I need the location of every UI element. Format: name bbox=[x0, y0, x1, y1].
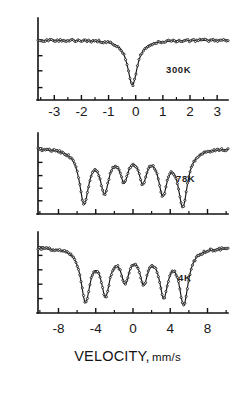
data-point bbox=[156, 173, 158, 175]
data-point bbox=[194, 160, 196, 162]
data-point bbox=[143, 181, 145, 183]
data-point bbox=[159, 281, 161, 283]
data-point bbox=[136, 65, 138, 67]
data-point bbox=[72, 160, 74, 162]
data-point bbox=[90, 277, 92, 279]
data-point bbox=[104, 193, 106, 195]
data-point bbox=[147, 270, 149, 272]
data-point bbox=[121, 275, 123, 277]
data-point bbox=[156, 272, 158, 274]
data-point bbox=[165, 290, 167, 292]
data-point bbox=[88, 186, 90, 188]
data-point bbox=[81, 287, 83, 289]
temperature-label-300K: 300K bbox=[166, 64, 191, 75]
data-point bbox=[80, 191, 82, 193]
data-point bbox=[159, 184, 161, 186]
data-point bbox=[140, 179, 142, 181]
data-point bbox=[126, 175, 128, 177]
data-point bbox=[126, 280, 128, 282]
data-point bbox=[157, 178, 159, 180]
data-point bbox=[134, 263, 136, 265]
data-point bbox=[117, 265, 119, 267]
data-point bbox=[146, 274, 148, 276]
temperature-label-78K: 78K bbox=[176, 173, 195, 184]
data-point bbox=[137, 267, 139, 269]
data-point bbox=[179, 288, 181, 290]
data-point bbox=[117, 166, 119, 168]
x-tick-label: 4 bbox=[166, 321, 174, 336]
data-points-78K bbox=[37, 147, 229, 208]
x-ticklabels-bottom: -8-4048 bbox=[52, 321, 211, 336]
data-point bbox=[155, 170, 157, 172]
data-point bbox=[109, 276, 111, 278]
data-point bbox=[117, 46, 119, 48]
data-point bbox=[183, 205, 185, 207]
data-point bbox=[141, 53, 143, 55]
data-point bbox=[100, 185, 102, 187]
data-point bbox=[155, 267, 157, 269]
data-point bbox=[194, 260, 196, 262]
data-point bbox=[125, 59, 127, 61]
data-point bbox=[107, 290, 109, 292]
data-point bbox=[191, 264, 193, 266]
data-point bbox=[110, 274, 112, 276]
data-point bbox=[58, 150, 60, 152]
data-point bbox=[79, 183, 81, 185]
data-point bbox=[169, 275, 171, 277]
temperature-label-4K: 4K bbox=[178, 272, 191, 283]
data-point bbox=[141, 281, 143, 283]
data-point bbox=[129, 78, 131, 80]
data-point bbox=[147, 168, 149, 170]
data-point bbox=[98, 39, 100, 41]
data-point bbox=[77, 268, 79, 270]
data-point bbox=[80, 281, 82, 283]
x-ticklabels-300K: -3-2-10123 bbox=[48, 104, 221, 119]
data-point bbox=[118, 169, 120, 171]
data-point bbox=[135, 73, 137, 75]
x-tick-label: 8 bbox=[204, 321, 212, 336]
x-tick-label: 0 bbox=[132, 104, 140, 119]
data-point bbox=[138, 271, 140, 273]
data-point bbox=[146, 172, 148, 174]
data-point bbox=[164, 297, 166, 299]
data-point bbox=[140, 277, 142, 279]
data-point bbox=[100, 281, 102, 283]
data-point bbox=[108, 285, 110, 287]
data-point bbox=[219, 249, 221, 251]
data-point bbox=[90, 175, 92, 177]
data-point bbox=[187, 39, 189, 41]
data-point bbox=[130, 82, 132, 84]
data-point bbox=[227, 247, 229, 249]
data-point bbox=[86, 191, 88, 193]
data-point bbox=[107, 182, 109, 184]
panel-78K: 78K bbox=[37, 133, 229, 214]
data-point bbox=[227, 40, 229, 42]
data-point bbox=[175, 274, 177, 276]
data-point bbox=[85, 198, 87, 200]
data-point bbox=[185, 295, 187, 297]
data-point bbox=[70, 253, 72, 255]
data-point bbox=[83, 295, 85, 297]
x-axis-title-units: mm/s bbox=[152, 351, 181, 363]
data-point bbox=[184, 199, 186, 201]
data-point bbox=[89, 284, 91, 286]
data-point bbox=[113, 268, 115, 270]
data-point bbox=[184, 302, 186, 304]
data-point bbox=[79, 274, 81, 276]
data-point bbox=[178, 188, 180, 190]
data-point bbox=[121, 176, 123, 178]
data-point bbox=[88, 291, 90, 293]
fit-curve-78K bbox=[38, 149, 228, 206]
x-axis-title: VELOCITY,mm/s bbox=[74, 348, 181, 364]
data-points-300K bbox=[37, 38, 229, 86]
data-point bbox=[160, 287, 162, 289]
data-point bbox=[136, 167, 138, 169]
data-point bbox=[181, 302, 183, 304]
panel-300K: 300K bbox=[37, 18, 229, 100]
data-point bbox=[137, 169, 139, 171]
data-point bbox=[74, 163, 76, 165]
data-point bbox=[99, 276, 101, 278]
panel-4K: 4K bbox=[37, 232, 229, 313]
data-point bbox=[108, 178, 110, 180]
data-point bbox=[126, 63, 128, 65]
